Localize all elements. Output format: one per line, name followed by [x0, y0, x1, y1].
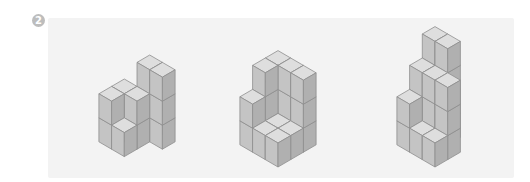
- figure-3: [397, 27, 461, 167]
- figure-2: [240, 51, 316, 167]
- cube-figures: [0, 0, 530, 182]
- figure-1: [99, 55, 175, 157]
